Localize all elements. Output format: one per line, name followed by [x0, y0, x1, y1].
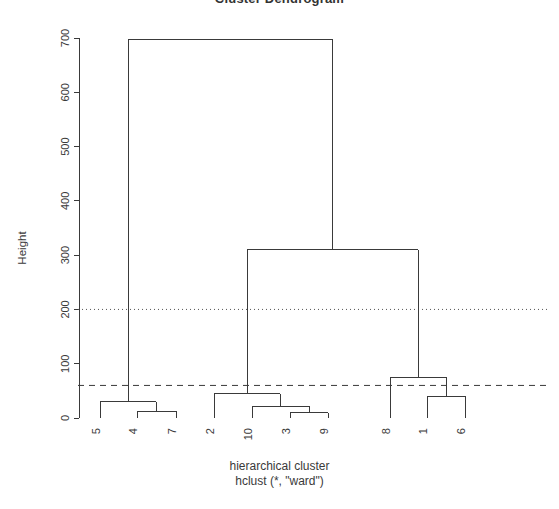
- leaf-label-4: 4: [127, 428, 139, 434]
- leaf-label-2: 2: [204, 428, 216, 434]
- y-axis-tick-label-100: 100: [59, 355, 71, 373]
- y-axis-tick-label-500: 500: [59, 137, 71, 155]
- x-axis-label-line1: hierarchical cluster: [0, 459, 559, 474]
- leaf-label-6: 6: [455, 428, 467, 434]
- leaf-label-3: 3: [280, 428, 292, 434]
- leaf-label-5: 5: [90, 428, 102, 434]
- leaf-label-9: 9: [318, 428, 330, 434]
- y-axis-tick-label-600: 600: [59, 83, 71, 101]
- y-axis-tick-label-200: 200: [59, 300, 71, 318]
- y-axis-tick-label-400: 400: [59, 192, 71, 210]
- leaf-label-10: 10: [242, 428, 254, 440]
- leaf-label-1: 1: [417, 428, 429, 434]
- y-axis-tick-label-700: 700: [59, 29, 71, 47]
- leaf-label-8: 8: [380, 428, 392, 434]
- dendrogram-canvas: 0100200300400500600700Height54721039816: [0, 0, 559, 509]
- x-axis-label-line2: hclust (*, "ward"): [0, 474, 559, 489]
- y-axis-tick-label-300: 300: [59, 246, 71, 264]
- leaf-label-7: 7: [166, 428, 178, 434]
- y-axis-title: Height: [16, 231, 28, 265]
- y-axis-tick-label-0: 0: [59, 415, 71, 421]
- dendrogram-plot: Cluster Dendrogram 010020030040050060070…: [0, 0, 559, 509]
